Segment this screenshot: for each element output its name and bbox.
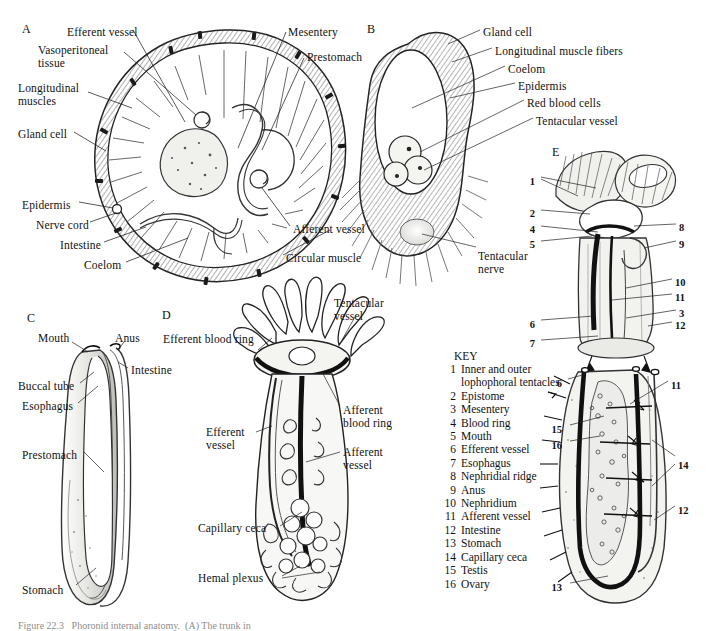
panel-e-callout-number: 8 bbox=[679, 222, 684, 233]
key-item: 4Blood ring bbox=[440, 417, 600, 430]
panel-e-callout-number: 2 bbox=[517, 208, 535, 219]
panel_c-label: Anus bbox=[115, 332, 140, 345]
panel_c-label: Buccal tube bbox=[18, 380, 74, 393]
key-item: 1Inner and outer lophophoral tentacles bbox=[440, 363, 600, 390]
key-item: 14Capillary ceca bbox=[440, 551, 600, 564]
key-item-number: 13 bbox=[440, 537, 456, 550]
key-item: 3Mesentery bbox=[440, 403, 600, 416]
key-item-label: Stomach bbox=[461, 537, 600, 550]
key-item-label: Nephridium bbox=[461, 497, 600, 510]
panel-e-callout-number: 6 bbox=[517, 319, 535, 330]
key-item-label: Mouth bbox=[461, 430, 600, 443]
key-item-number: 3 bbox=[440, 403, 456, 416]
key-item: 6Efferent vessel bbox=[440, 443, 600, 456]
key-item-label: Anus bbox=[461, 484, 600, 497]
panel-e-callout-number: 14 bbox=[678, 460, 689, 471]
panel_d-label: Capillary ceca bbox=[198, 522, 266, 535]
panel_a-label: Mesentery bbox=[288, 26, 338, 39]
panel-label-e: E bbox=[552, 145, 559, 160]
panel_c-label: Prestomach bbox=[22, 449, 77, 462]
key-item-number: 16 bbox=[440, 578, 456, 591]
panel-label-c: C bbox=[27, 311, 35, 326]
panel-b-artwork bbox=[340, 30, 533, 286]
panel_a-label: Nerve cord bbox=[36, 219, 89, 232]
key-item-number: 7 bbox=[440, 457, 456, 470]
panel-label-b: B bbox=[367, 22, 375, 37]
panel-label-a: A bbox=[22, 22, 31, 37]
key-item: 9Anus bbox=[440, 484, 600, 497]
panel_c-label: Intestine bbox=[131, 364, 172, 377]
panel_a-label: Longitudinal muscles bbox=[18, 82, 79, 107]
key-item-label: Esophagus bbox=[461, 457, 600, 470]
key-item: 10Nephridium bbox=[440, 497, 600, 510]
key-item-label: Capillary ceca bbox=[461, 551, 600, 564]
panel_b-label: Gland cell bbox=[483, 26, 532, 39]
panel-label-d: D bbox=[162, 308, 171, 323]
panel_a-label: Efferent vessel bbox=[67, 26, 138, 39]
key-item: 11Afferent vessel bbox=[440, 510, 600, 523]
key-item-number: 2 bbox=[440, 390, 456, 403]
key-item: 16Ovary bbox=[440, 578, 600, 591]
key-item: 7Esophagus bbox=[440, 457, 600, 470]
key-item-label: Ovary bbox=[461, 578, 600, 591]
key-title: KEY bbox=[454, 350, 600, 362]
key-item-number: 6 bbox=[440, 443, 456, 456]
panel_d-label: Hemal plexus bbox=[198, 572, 263, 585]
panel_a-label: Circular muscle bbox=[286, 252, 361, 265]
panel_d-label: Afferent vessel bbox=[343, 446, 383, 471]
panel_a-label: Vasoperitoneal tissue bbox=[38, 44, 108, 69]
key-item-label: Blood ring bbox=[461, 417, 600, 430]
panel-e-upper-artwork bbox=[541, 151, 676, 372]
panel-e-callout-number: 12 bbox=[675, 320, 686, 331]
panel-e-callout-number: 7 bbox=[517, 338, 535, 349]
key-item-number: 4 bbox=[440, 417, 456, 430]
key-item-number: 15 bbox=[440, 564, 456, 577]
panel-e-callout-number: 4 bbox=[517, 224, 535, 235]
panel_d-label: Tentacular vessel bbox=[334, 297, 384, 322]
panel_a-label: Afferent vessel bbox=[293, 223, 365, 236]
anatomy-figure: A B C D E Efferent vesselVasoperitoneal … bbox=[0, 0, 710, 631]
panel_d-label: Efferent vessel bbox=[206, 426, 245, 451]
panel-e-callout-number: 3 bbox=[679, 308, 684, 319]
panel-e-callout-number: 1 bbox=[517, 176, 535, 187]
panel_c-label: Stomach bbox=[22, 584, 63, 597]
panel_b-label: Longitudinal muscle fibers bbox=[495, 45, 623, 58]
key-legend: KEY 1Inner and outer lophophoral tentacl… bbox=[440, 350, 600, 591]
key-item: 5Mouth bbox=[440, 430, 600, 443]
panel_b-label: Tentacular vessel bbox=[536, 115, 618, 128]
panel_a-label: Gland cell bbox=[18, 128, 67, 141]
key-item-label: Nephridial ridge bbox=[461, 470, 600, 483]
panel_a-label: Intestine bbox=[60, 239, 101, 252]
key-item-number: 1 bbox=[440, 363, 456, 390]
key-item-number: 8 bbox=[440, 470, 456, 483]
key-item-label: Afferent vessel bbox=[461, 510, 600, 523]
key-item-label: Epistome bbox=[461, 390, 600, 403]
key-item: 12Intestine bbox=[440, 524, 600, 537]
panel-a-artwork bbox=[74, 30, 346, 285]
key-item: 2Epistome bbox=[440, 390, 600, 403]
key-item-label: Mesentery bbox=[461, 403, 600, 416]
panel-e-callout-number: 9 bbox=[679, 239, 684, 250]
key-item: 8Nephridial ridge bbox=[440, 470, 600, 483]
key-item-label: Inner and outer lophophoral tentacles bbox=[461, 363, 600, 390]
key-item-label: Testis bbox=[461, 564, 600, 577]
panel-e-callout-number: 11 bbox=[671, 380, 681, 391]
key-item-number: 5 bbox=[440, 430, 456, 443]
panel_b-label: Red blood cells bbox=[527, 97, 601, 110]
key-item-number: 12 bbox=[440, 524, 456, 537]
panel-e-callout-number: 5 bbox=[517, 239, 535, 250]
key-item-number: 11 bbox=[440, 510, 456, 523]
key-item-number: 14 bbox=[440, 551, 456, 564]
key-item: 13Stomach bbox=[440, 537, 600, 550]
panel_d-label: Afferent blood ring bbox=[343, 404, 392, 429]
key-list: 1Inner and outer lophophoral tentacles2E… bbox=[440, 363, 600, 591]
panel_b-label: Epidermis bbox=[518, 80, 567, 93]
panel-e-callout-number: 12 bbox=[678, 505, 689, 516]
panel_a-label: Epidermis bbox=[22, 199, 71, 212]
panel_c-label: Esophagus bbox=[22, 400, 73, 413]
panel_b-label: Tentacular nerve bbox=[478, 250, 528, 275]
key-item-label: Efferent vessel bbox=[461, 443, 600, 456]
key-item-label: Intestine bbox=[461, 524, 600, 537]
key-item: 15Testis bbox=[440, 564, 600, 577]
panel-e-callout-number: 11 bbox=[675, 292, 685, 303]
